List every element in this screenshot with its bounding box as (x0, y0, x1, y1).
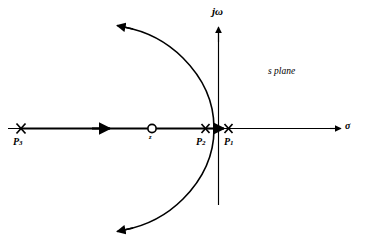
root-locus-figure: P3 z P2 P1 jω σ s plane (0, 0, 365, 249)
upper-branch-curve (124, 27, 214, 128)
j-omega-axis-label: jω (212, 5, 223, 17)
pole-label-p2: P2 (196, 136, 206, 147)
zero-label-z1: z (149, 133, 152, 140)
zero-marker-z1 (148, 124, 156, 132)
lower-branch-arrowhead (117, 228, 133, 232)
s-plane-label: s plane (268, 66, 295, 76)
pole-label-p1: P1 (224, 136, 234, 147)
pole-label-p3: P3 (13, 136, 23, 147)
upper-branch-arrowhead (117, 26, 133, 30)
upper-complex-branch (117, 26, 214, 129)
sigma-axis-label: σ (345, 120, 350, 131)
